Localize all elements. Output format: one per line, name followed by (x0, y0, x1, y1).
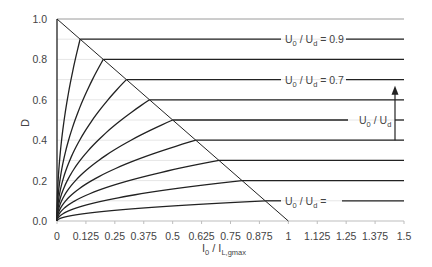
dcm-curve (57, 39, 80, 221)
curve-label: U0 / Ud (359, 114, 391, 129)
curve-label: U0 / Ud = 0.7 (285, 74, 344, 89)
x-tick-label: 1 (285, 230, 291, 242)
x-tick-label: 1.5 (397, 230, 412, 242)
x-tick-label: 0.125 (73, 230, 99, 242)
arrow-up-icon (392, 86, 399, 95)
x-tick-label: 0.5 (165, 230, 180, 242)
x-axis-label: I0 / IL,gmax (202, 242, 246, 257)
x-tick-label: 0 (54, 230, 60, 242)
curve-label: U0 / Ud = (285, 195, 326, 210)
x-tick-label: 0.25 (105, 230, 126, 242)
y-tick-label: 0.6 (32, 94, 47, 106)
x-tick-label: 1.25 (336, 230, 357, 242)
gridlines (57, 19, 404, 201)
x-tick-label: 0.625 (188, 230, 214, 242)
duty-cycle-chart: 00.1250.250.3750.50.6250.750.87511.1251.… (0, 0, 432, 267)
curve-label: U0 / Ud = 0.9 (285, 33, 344, 48)
x-tick-label: 1.375 (362, 230, 388, 242)
y-tick-label: 0.0 (32, 215, 47, 227)
x-tick-label: 0.875 (246, 230, 272, 242)
x-tick-label: 0.75 (220, 230, 241, 242)
axes (57, 19, 404, 224)
y-tick-label: 1.0 (32, 13, 47, 25)
y-tick-label: 0.2 (32, 175, 47, 187)
y-tick-label: 0.4 (32, 134, 47, 146)
y-tick-label: 0.8 (32, 53, 47, 65)
x-tick-label: 0.375 (131, 230, 157, 242)
dcm-curve (57, 120, 173, 221)
y-axis-label: D (19, 119, 31, 127)
x-tick-label: 1.125 (304, 230, 330, 242)
chart-svg: 00.1250.250.3750.50.6250.750.87511.1251.… (0, 0, 432, 267)
dcm-curve (57, 160, 219, 221)
